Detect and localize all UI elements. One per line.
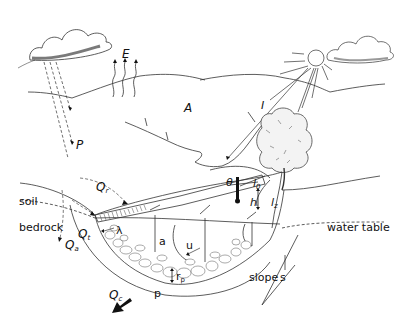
label-channel-flow: Qc xyxy=(109,289,122,303)
label-h: h xyxy=(250,197,257,208)
label-radiation: I xyxy=(261,100,264,111)
cloud-icon xyxy=(327,36,394,63)
ground-surface-left xyxy=(20,172,282,215)
label-s: s xyxy=(280,272,286,283)
label-rp: rp xyxy=(176,271,185,284)
slope-triangle xyxy=(262,235,298,305)
qt-flow-arrow xyxy=(72,200,93,214)
label-u: u xyxy=(186,240,193,251)
label-lambda: λ xyxy=(116,225,123,236)
label-bedrock: bedrock xyxy=(19,222,63,233)
label-p: p xyxy=(154,288,161,299)
soil-wedge xyxy=(95,175,265,222)
precipitation-lines xyxy=(44,62,72,158)
evaporation-arrows-icon xyxy=(113,62,137,97)
label-evaporation: E xyxy=(122,48,130,60)
stream-line xyxy=(125,122,262,167)
label-theta: θ xyxy=(226,177,233,188)
ground-surface-right xyxy=(282,176,380,190)
label-a: a xyxy=(159,236,166,247)
label-precipitation: P xyxy=(76,139,83,151)
label-soil: soil xyxy=(19,196,38,207)
label-lz: lz xyxy=(271,197,278,210)
hill-far-line xyxy=(200,74,385,92)
label-area: A xyxy=(184,102,192,114)
hydrology-diagram: E A I P Qr Qt Qa Qc soil bedrock water t… xyxy=(0,0,404,320)
wedge-hatching xyxy=(100,205,146,221)
label-water-table: water table xyxy=(327,222,390,233)
label-runoff: Qr xyxy=(96,181,108,195)
label-aquifer-flow: Qa xyxy=(65,239,79,253)
label-l0: l0 xyxy=(253,178,261,191)
diagram-drawing xyxy=(0,0,404,320)
rain-cloud-icon xyxy=(18,30,112,68)
label-throughflow: Qt xyxy=(78,228,90,242)
tree-icon xyxy=(257,108,312,190)
label-slope: slope xyxy=(249,272,278,283)
